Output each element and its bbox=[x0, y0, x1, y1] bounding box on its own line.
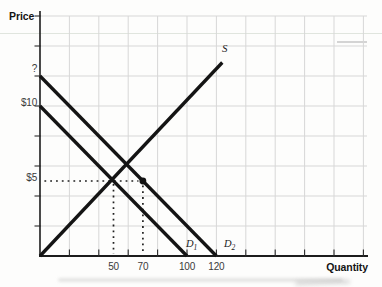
supply-demand-figure: Price Quantity S D1 D2 5070100120?$10$5 bbox=[0, 0, 382, 287]
demand2-subscript: 2 bbox=[232, 243, 236, 252]
x-tick-label-120: 120 bbox=[202, 261, 230, 273]
demand1-subscript: 1 bbox=[194, 243, 198, 252]
demand1-letter: D bbox=[186, 238, 194, 249]
x-tick-label-50: 50 bbox=[100, 261, 128, 273]
x-tick-label-100: 100 bbox=[173, 261, 201, 273]
axes bbox=[39, 11, 368, 257]
demand2-letter: D bbox=[224, 238, 232, 249]
grid-lines bbox=[40, 16, 367, 256]
y-tick-label-5: $5 bbox=[9, 172, 37, 184]
price-axis-title: Price bbox=[9, 10, 34, 22]
y-tick-label-12: ? bbox=[9, 63, 37, 75]
x-tick-label-70: 70 bbox=[129, 261, 157, 273]
demand2-curve-label: D2 bbox=[224, 238, 235, 252]
demand1-curve-label: D1 bbox=[186, 238, 197, 252]
marker-dot bbox=[140, 178, 147, 185]
curves bbox=[40, 63, 222, 257]
supply-curve-label: S bbox=[222, 42, 228, 54]
point-q70-p5 bbox=[140, 178, 147, 185]
supply-curve bbox=[40, 63, 222, 257]
quantity-axis-title: Quantity bbox=[326, 261, 368, 273]
y-tick-label-10: $10 bbox=[9, 97, 37, 109]
